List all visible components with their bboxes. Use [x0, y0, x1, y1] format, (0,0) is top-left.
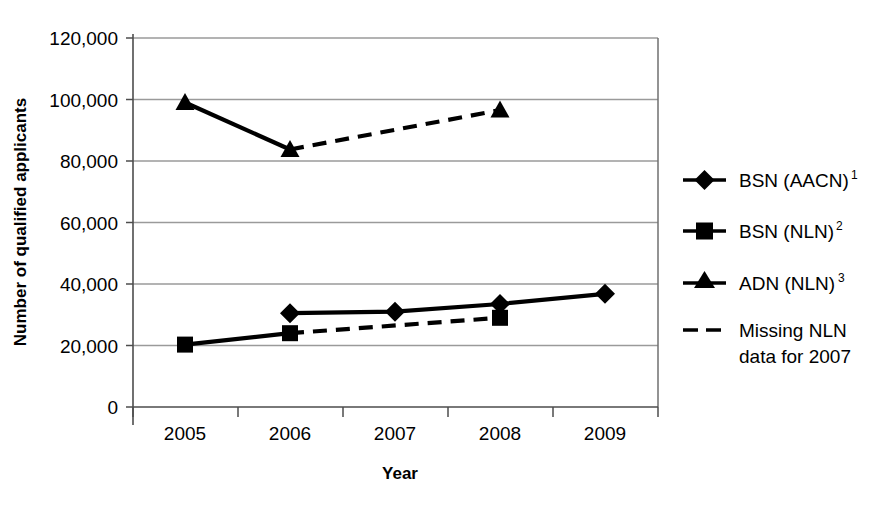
legend-superscript-bsn-nln: 2 [836, 219, 843, 233]
y-tick-label-60000: 60,000 [60, 213, 118, 234]
x-tick-label-2009: 2009 [584, 423, 626, 444]
x-tick-label-2007: 2007 [374, 423, 416, 444]
chart-figure: 120,000 100,000 80,000 60,000 40,000 20,… [0, 0, 882, 516]
legend-label-bsn-aacn: BSN (AACN) [739, 170, 849, 191]
bsn-nln-marker-2005 [177, 337, 193, 353]
x-tick-label-2006: 2006 [269, 423, 311, 444]
y-tick-label-20000: 20,000 [60, 336, 118, 357]
y-axis-title: Number of qualified applicants [11, 98, 30, 346]
legend-label-missing-line2: data for 2007 [739, 346, 851, 367]
y-tick-label-0: 0 [107, 397, 118, 418]
y-tick-label-100000: 100,000 [49, 90, 118, 111]
y-tick-label-80000: 80,000 [60, 151, 118, 172]
legend-superscript-bsn-aacn: 1 [851, 168, 858, 182]
y-tick-label-40000: 40,000 [60, 274, 118, 295]
x-axis-title: Year [382, 464, 418, 483]
legend-label-missing-line1: Missing NLN [739, 320, 847, 341]
legend-superscript-adn-nln: 3 [838, 271, 845, 285]
y-tick-label-120000: 120,000 [49, 28, 118, 49]
x-tick-label-2005: 2005 [164, 423, 206, 444]
bsn-nln-marker-2006 [282, 325, 298, 341]
square-marker-icon [696, 223, 713, 240]
legend-label-bsn-nln: BSN (NLN) [739, 221, 834, 242]
legend-label-adn-nln: ADN (NLN) [739, 273, 835, 294]
line-chart: 120,000 100,000 80,000 60,000 40,000 20,… [0, 0, 882, 516]
x-tick-label-2008: 2008 [479, 423, 521, 444]
